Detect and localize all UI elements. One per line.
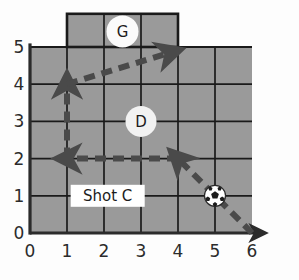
x-tick-label: 1	[62, 241, 73, 261]
shot-label-text: Shot C	[83, 187, 132, 205]
diagram-canvas: GDShot C0123456012345	[0, 0, 299, 280]
goal-label: G	[117, 23, 129, 41]
x-tick-label: 4	[173, 241, 184, 261]
x-tick-label: 3	[136, 241, 147, 261]
y-tick-label: 5	[14, 37, 25, 57]
y-tick-label: 1	[14, 186, 25, 206]
x-tick-label: 2	[99, 241, 110, 261]
x-tick-label: 6	[247, 241, 258, 261]
y-tick-label: 4	[14, 74, 25, 94]
x-tick-label: 5	[210, 241, 221, 261]
marker-label-D: D	[135, 113, 147, 131]
y-tick-label: 0	[14, 223, 25, 243]
y-tick-label: 2	[14, 149, 25, 169]
x-tick-label: 0	[25, 241, 36, 261]
coordinate-grid-diagram: GDShot C0123456012345	[0, 0, 299, 280]
y-tick-label: 3	[14, 111, 25, 131]
